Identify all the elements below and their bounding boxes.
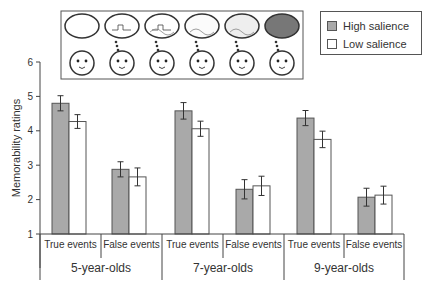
y-tick-label: 6 <box>27 57 33 68</box>
y-tick-label: 1 <box>27 229 33 240</box>
legend-item-low: Low salience <box>327 37 407 51</box>
category-label: False events <box>346 239 403 250</box>
y-tick-label: 3 <box>27 160 33 171</box>
legend-item-high: High salience <box>327 19 409 33</box>
category-label: True events <box>288 239 340 250</box>
legend-swatch-high <box>327 21 337 31</box>
thought-bubble-icon <box>225 14 259 38</box>
bar <box>69 122 86 234</box>
category-label: True events <box>166 239 218 250</box>
thought-bubble-icon <box>105 14 139 38</box>
bar <box>175 111 192 234</box>
bar <box>52 103 69 234</box>
y-tick-label: 4 <box>27 125 33 136</box>
thought-bubble-icon <box>145 14 179 38</box>
inset-illustration <box>61 11 303 79</box>
child-face-icon <box>190 51 214 75</box>
child-face-icon <box>70 51 94 75</box>
child-face-icon <box>270 51 294 75</box>
group-label: 5-year-olds <box>71 261 131 275</box>
legend: High salience Low salience <box>320 11 422 55</box>
legend-label-low: Low salience <box>343 38 407 50</box>
bar <box>297 118 314 234</box>
category-label: False events <box>225 239 282 250</box>
group-label: 7-year-olds <box>193 261 253 275</box>
thought-bubble-icon <box>265 14 299 38</box>
x-labels: True eventsFalse events5-year-oldsTrue e… <box>40 234 404 280</box>
thought-bubble-icon <box>185 14 219 38</box>
y-ticks: 123456 <box>27 57 40 240</box>
bar <box>192 129 209 234</box>
group-label: 9-year-olds <box>314 261 374 275</box>
thought-bubble-icon <box>65 14 99 38</box>
legend-swatch-low <box>327 39 337 49</box>
category-label: False events <box>103 239 160 250</box>
category-label: True events <box>44 239 96 250</box>
y-axis-label: Memorability ratings <box>10 98 22 197</box>
bar <box>314 139 331 234</box>
bar <box>112 169 129 234</box>
legend-label-high: High salience <box>343 20 409 32</box>
child-face-icon <box>110 51 134 75</box>
child-face-icon <box>230 51 254 75</box>
y-tick-label: 5 <box>27 91 33 102</box>
bars <box>52 96 392 234</box>
child-face-icon <box>150 51 174 75</box>
y-tick-label: 2 <box>27 194 33 205</box>
